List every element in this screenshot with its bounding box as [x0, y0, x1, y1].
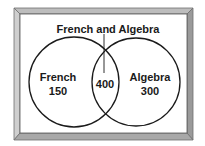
frame-right-bevel — [187, 8, 193, 140]
venn-diagram-canvas: French and Algebra French 150 400 Algebr… — [0, 0, 205, 146]
intersection-title-label: French and Algebra — [57, 23, 161, 35]
algebra-set-name: Algebra — [130, 71, 172, 83]
frame-top-bevel — [14, 8, 193, 14]
french-only-value: 150 — [49, 85, 67, 97]
frame-bottom-bevel — [14, 133, 193, 140]
frame-left-bevel — [14, 8, 20, 140]
algebra-only-value: 300 — [141, 85, 159, 97]
venn-diagram-figure: French and Algebra French 150 400 Algebr… — [0, 0, 205, 146]
french-set-name: French — [40, 71, 77, 83]
intersection-value: 400 — [96, 78, 114, 90]
